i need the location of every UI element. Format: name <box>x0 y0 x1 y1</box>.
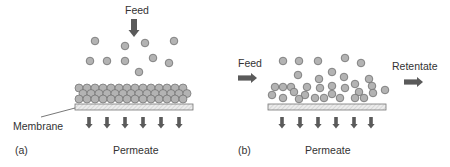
panel-a <box>41 19 193 129</box>
feed-label-b: Feed <box>238 58 262 69</box>
suspended-particles-a <box>86 37 178 76</box>
permeate-arrows-a <box>85 117 182 129</box>
diagram-graphics <box>0 0 450 167</box>
feed-arrow-icon-a <box>129 19 140 37</box>
membrane-leader-line <box>41 108 75 117</box>
permeate-label-a: Permeate <box>113 145 159 156</box>
membrane-b <box>268 104 386 110</box>
panel-label-b: (b) <box>238 145 251 156</box>
particles-b <box>268 54 389 103</box>
permeate-arrows-b <box>278 117 374 129</box>
feed-arrow-icon-b <box>238 73 257 83</box>
panel-label-a: (a) <box>15 145 28 156</box>
filter-cake-a <box>75 84 191 103</box>
feed-label-a: Feed <box>125 5 149 16</box>
membrane-a <box>75 104 193 110</box>
retentate-arrow-icon <box>404 77 423 87</box>
permeate-label-b: Permeate <box>305 145 351 156</box>
retentate-label: Retentate <box>392 61 438 72</box>
membrane-label: Membrane <box>13 121 63 132</box>
filtration-diagram: Feed Membrane (a) Permeate Feed Retentat… <box>0 0 450 167</box>
